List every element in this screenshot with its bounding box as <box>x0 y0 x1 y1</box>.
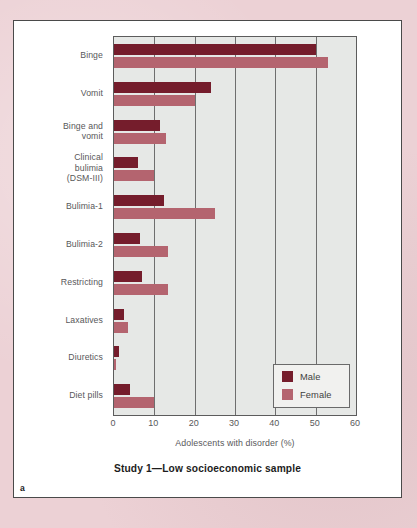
panel-letter: a <box>20 483 25 493</box>
y-label-2: Binge and vomit <box>63 120 103 141</box>
gridline-20 <box>195 37 196 415</box>
gridline-50 <box>316 37 317 415</box>
chart-legend: Male Female <box>273 364 350 408</box>
bar-female-5 <box>114 246 168 257</box>
x-tick-30: 30 <box>229 418 239 428</box>
y-label-8: Diuretics <box>68 352 103 363</box>
x-tick-10: 10 <box>148 418 158 428</box>
bar-female-7 <box>114 322 128 333</box>
figure-panel: BingeVomitBinge and vomitClinical bulimi… <box>13 20 402 498</box>
x-tick-60: 60 <box>350 418 360 428</box>
bar-male-6 <box>114 271 142 282</box>
legend-label-female: Female <box>300 390 332 400</box>
bar-female-6 <box>114 284 168 295</box>
figure-caption: Study 1—Low socioeconomic sample <box>14 463 401 474</box>
bar-male-0 <box>114 44 316 55</box>
legend-label-male: Male <box>300 372 321 382</box>
legend-swatch-male <box>282 371 293 382</box>
bar-female-4 <box>114 208 215 219</box>
chart-plot-area: Male Female <box>113 36 357 416</box>
gridline-30 <box>235 37 236 415</box>
y-label-6: Restricting <box>61 276 103 287</box>
x-tick-20: 20 <box>189 418 199 428</box>
gridline-10 <box>154 37 155 415</box>
y-label-1: Vomit <box>81 87 103 98</box>
bar-male-8 <box>114 346 119 357</box>
y-label-5: Bulimia-2 <box>66 239 103 250</box>
bar-female-2 <box>114 133 166 144</box>
bar-female-1 <box>114 95 195 106</box>
bar-male-7 <box>114 309 124 320</box>
y-label-3: Clinical bulimia (DSM-III) <box>67 153 103 185</box>
legend-swatch-female <box>282 389 293 400</box>
x-axis-title: Adolescents with disorder (%) <box>113 438 357 448</box>
gridline-40 <box>275 37 276 415</box>
x-tick-40: 40 <box>269 418 279 428</box>
x-axis-tick-labels: 0102030405060 <box>113 418 357 434</box>
bar-male-3 <box>114 157 138 168</box>
x-tick-50: 50 <box>310 418 320 428</box>
x-tick-0: 0 <box>110 418 115 428</box>
bar-male-5 <box>114 233 140 244</box>
legend-item-female: Female <box>282 389 342 400</box>
y-label-4: Bulimia-1 <box>66 201 103 212</box>
y-axis-category-labels: BingeVomitBinge and vomitClinical bulimi… <box>14 36 109 416</box>
gridline-60 <box>356 37 357 415</box>
bar-female-8 <box>114 359 116 370</box>
bar-male-2 <box>114 120 160 131</box>
bar-male-9 <box>114 384 130 395</box>
y-label-0: Binge <box>80 50 103 61</box>
bar-female-3 <box>114 170 154 181</box>
bar-female-9 <box>114 397 154 408</box>
bar-male-1 <box>114 82 211 93</box>
bar-male-4 <box>114 195 164 206</box>
legend-item-male: Male <box>282 371 342 382</box>
bar-female-0 <box>114 57 328 68</box>
y-label-9: Diet pills <box>69 390 103 401</box>
y-label-7: Laxatives <box>65 314 103 325</box>
